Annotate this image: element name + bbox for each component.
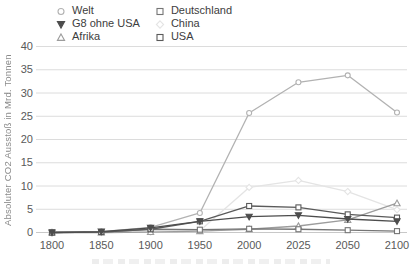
cut-off-caption: [92, 259, 330, 264]
legend-g8-ohne-usa-icon: [55, 18, 67, 30]
y-tick-label: 5: [27, 203, 33, 215]
legend-china-marker-icon: [156, 20, 163, 27]
legend-usa-marker-icon: [157, 34, 163, 40]
legend-label: Afrika: [72, 30, 100, 43]
legend-label: China: [171, 17, 200, 30]
legend-g8-ohne-usa-marker-icon: [57, 21, 64, 27]
deutschland-marker-icon: [247, 226, 252, 231]
welt-marker-icon: [197, 210, 202, 215]
legend-afrika-icon: [55, 31, 67, 43]
x-tick-label: 1950: [188, 239, 212, 251]
china-marker-icon: [295, 177, 301, 183]
legend-deutschland-icon: [154, 5, 166, 17]
y-tick-label: 20: [21, 133, 33, 145]
legend-item-usa: USA: [154, 30, 232, 43]
legend-label: Deutschland: [171, 4, 232, 17]
y-tick-label: 40: [21, 40, 33, 52]
legend-label: USA: [171, 30, 194, 43]
legend-welt-marker-icon: [58, 8, 64, 14]
x-tick-label: 1850: [89, 239, 113, 251]
y-tick-label: 30: [21, 87, 33, 99]
x-tick-label: 2025: [286, 239, 310, 251]
y-tick-label: 0: [27, 226, 33, 238]
y-tick-label: 35: [21, 63, 33, 75]
legend-afrika-marker-icon: [57, 33, 64, 39]
deutschland-marker-icon: [197, 227, 202, 232]
china-marker-icon: [394, 207, 400, 213]
chart-legend: WeltG8 ohne USAAfrikaDeutschlandChinaUSA: [55, 4, 232, 43]
x-tick-label: 1900: [138, 239, 162, 251]
g8-ohne-usa-marker-icon: [394, 219, 400, 225]
legend-item-welt: Welt: [55, 4, 140, 17]
legend-china-icon: [154, 18, 166, 30]
x-tick-label: 2100: [385, 239, 409, 251]
legend-usa-icon: [154, 31, 166, 43]
legend-item-deutschland: Deutschland: [154, 4, 232, 17]
g8-ohne-usa-marker-icon: [246, 214, 252, 220]
x-tick-label: 2000: [237, 239, 261, 251]
legend-label: G8 ohne USA: [72, 17, 140, 30]
afrika-marker-icon: [394, 200, 400, 206]
welt-marker-icon: [296, 80, 301, 85]
welt-marker-icon: [247, 110, 252, 115]
legend-item-g8-ohne-usa: G8 ohne USA: [55, 17, 140, 30]
x-tick-label: 2050: [335, 239, 359, 251]
co2-emissions-line-chart: Absoluter CO2 Ausstoß in Mrd. Tonnen 051…: [0, 0, 414, 266]
legend-label: Welt: [72, 4, 94, 17]
welt-marker-icon: [345, 73, 350, 78]
china-marker-icon: [345, 188, 351, 194]
legend-welt-icon: [55, 5, 67, 17]
legend-item-china: China: [154, 17, 232, 30]
deutschland-marker-icon: [345, 228, 350, 233]
series-line-china: [52, 180, 397, 232]
deutschland-marker-icon: [395, 229, 400, 234]
y-tick-label: 25: [21, 110, 33, 122]
usa-marker-icon: [296, 205, 301, 210]
y-tick-label: 10: [21, 180, 33, 192]
x-tick-label: 1800: [40, 239, 64, 251]
g8-ohne-usa-marker-icon: [295, 213, 301, 219]
welt-marker-icon: [395, 110, 400, 115]
deutschland-marker-icon: [296, 227, 301, 232]
legend-item-afrika: Afrika: [55, 30, 140, 43]
legend-deutschland-marker-icon: [157, 8, 163, 14]
usa-marker-icon: [247, 203, 252, 208]
y-tick-label: 15: [21, 156, 33, 168]
